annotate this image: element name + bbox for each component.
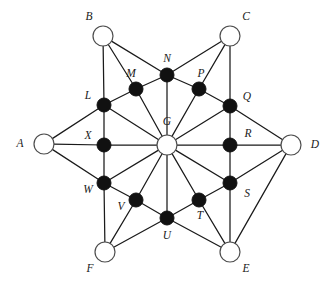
graph-node-W[interactable] [97, 176, 111, 190]
graph-edge-G-W [104, 150, 159, 183]
graph-node-T[interactable] [192, 193, 206, 207]
graph-node-B[interactable] [93, 26, 113, 46]
graph-edge-G-Q [175, 106, 230, 140]
graph-edge-A-X [53, 144, 104, 145]
graph-node-N[interactable] [160, 68, 174, 82]
graph-edge-D-E [235, 153, 287, 244]
graph-edge-A-W [52, 149, 104, 183]
graph-node-P[interactable] [192, 82, 206, 96]
graph-edge-D-Q [230, 106, 283, 140]
graph-edge-G-V [136, 153, 162, 200]
graph-node-R[interactable] [223, 138, 237, 152]
graph-edge-G-S [175, 150, 230, 183]
graph-node-label-N: N [162, 52, 172, 64]
graph-node-label-E: E [241, 262, 249, 274]
graph-node-U[interactable] [160, 211, 174, 225]
graph-node-label-W: W [83, 183, 94, 195]
graph-node-C[interactable] [220, 26, 240, 46]
graph-diagram: ABCDEFGLMNPQRSTUVWX [0, 0, 333, 283]
graph-node-label-R: R [243, 127, 251, 139]
graph-node-label-L: L [84, 89, 91, 101]
graph-edge-B-N [111, 41, 167, 75]
graph-node-G[interactable] [157, 135, 177, 155]
graph-node-label-V: V [117, 200, 126, 212]
graph-node-L[interactable] [97, 98, 111, 112]
graph-edge-G-M [136, 89, 162, 137]
graph-node-label-B: B [85, 10, 92, 22]
graph-node-label-C: C [242, 10, 250, 22]
graph-node-label-P: P [196, 67, 204, 79]
graph-node-label-F: F [85, 262, 94, 274]
graph-node-label-G: G [163, 115, 172, 127]
graph-node-label-X: X [83, 129, 92, 141]
graph-edge-G-P [172, 89, 199, 137]
graph-edge-D-S [230, 150, 283, 183]
graph-edge-E-U [167, 218, 222, 248]
graph-node-X[interactable] [97, 138, 111, 152]
graph-node-label-M: M [125, 67, 137, 79]
graph-node-label-A: A [15, 137, 24, 149]
graph-edge-F-U [113, 218, 167, 247]
graph-node-Q[interactable] [223, 99, 237, 113]
graph-edge-G-T [172, 153, 199, 200]
graph-node-D[interactable] [281, 135, 301, 155]
graph-canvas: ABCDEFGLMNPQRSTUVWX [0, 0, 333, 283]
graph-node-label-S: S [244, 187, 250, 199]
graph-node-A[interactable] [34, 134, 54, 154]
graph-node-label-T: T [197, 209, 205, 221]
graph-node-label-D: D [310, 138, 320, 150]
graph-node-S[interactable] [223, 176, 237, 190]
graph-edge-C-N [167, 41, 222, 75]
graph-node-label-Q: Q [243, 90, 252, 102]
graph-edge-G-L [104, 105, 159, 140]
graph-edge-A-L [52, 105, 104, 139]
graph-node-F[interactable] [95, 242, 115, 262]
graph-edge-F-W [104, 183, 105, 243]
graph-edge-B-L [103, 45, 104, 105]
graph-node-E[interactable] [220, 242, 240, 262]
graph-node-V[interactable] [129, 193, 143, 207]
graph-node-label-U: U [163, 229, 172, 241]
graph-node-M[interactable] [129, 82, 143, 96]
